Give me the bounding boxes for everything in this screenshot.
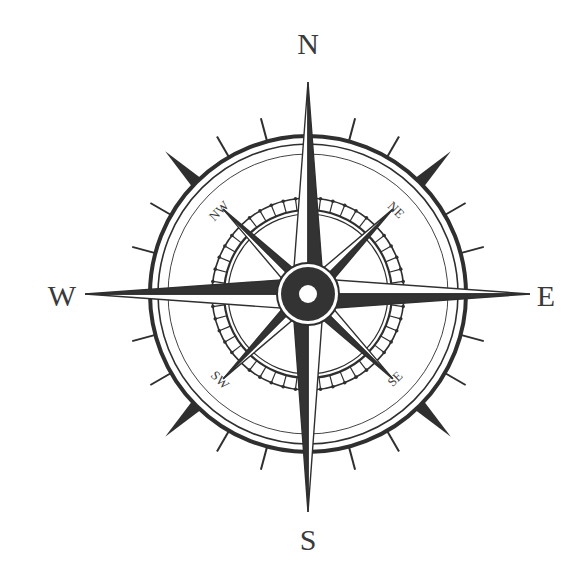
short-tick (349, 447, 355, 470)
short-tick (150, 373, 171, 385)
short-tick (150, 203, 171, 215)
band-dot (269, 204, 273, 208)
band-dot (281, 385, 285, 389)
band-dot (399, 267, 403, 271)
band-dot (343, 204, 347, 208)
short-tick (261, 118, 267, 141)
band-dot (399, 317, 403, 321)
band-dot (395, 329, 399, 333)
band-dot (213, 317, 217, 321)
compass-rose: N E S W NE SE SW NW (0, 0, 585, 585)
band-dot (354, 209, 358, 213)
east-label: E (537, 279, 555, 312)
short-tick (132, 335, 155, 341)
band-dot (382, 234, 386, 238)
short-tick (261, 447, 267, 470)
center-hub (277, 263, 339, 325)
band-dot (230, 234, 234, 238)
short-tick (461, 247, 484, 253)
band-dot (213, 267, 217, 271)
short-tick (217, 431, 229, 452)
band-dot (331, 385, 335, 389)
band-dot (223, 340, 227, 344)
band-dot (281, 199, 285, 203)
band-dot (248, 368, 252, 372)
band-dot (331, 199, 335, 203)
band-dot (294, 197, 298, 201)
band-dot (354, 375, 358, 379)
short-tick (445, 203, 466, 215)
band-dot (382, 351, 386, 355)
short-tick (349, 118, 355, 141)
band-dot (248, 216, 252, 220)
band-dot (343, 381, 347, 385)
band-dot (218, 329, 222, 333)
west-label: W (48, 279, 77, 312)
band-dot (389, 244, 393, 248)
band-dot (401, 280, 405, 284)
band-dot (395, 255, 399, 259)
band-dot (319, 387, 323, 391)
band-dot (230, 351, 234, 355)
short-tick (461, 335, 484, 341)
band-dot (258, 209, 262, 213)
short-tick (387, 431, 399, 452)
short-tick (445, 373, 466, 385)
short-tick (217, 136, 229, 157)
band-dot (401, 305, 405, 309)
hub-center-hole (299, 285, 317, 303)
short-tick (132, 247, 155, 253)
band-dot (258, 375, 262, 379)
band-dot (223, 244, 227, 248)
band-dot (319, 197, 323, 201)
band-dot (269, 381, 273, 385)
south-label: S (300, 523, 317, 556)
band-dot (389, 340, 393, 344)
band-dot (218, 255, 222, 259)
short-tick (387, 136, 399, 157)
band-dot (211, 280, 215, 284)
band-dot (365, 368, 369, 372)
band-dot (365, 216, 369, 220)
band-dot (211, 305, 215, 309)
north-label: N (297, 27, 319, 60)
band-dot (294, 387, 298, 391)
